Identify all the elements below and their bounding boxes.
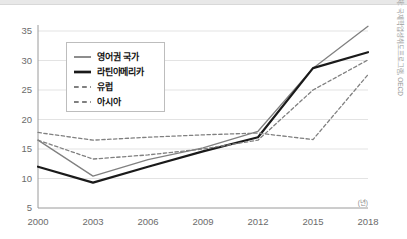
line-chart-plot: 5101520253035 20002003200620092012201520… [0,0,407,239]
legend-label-latin-america: 라틴아메리카 [97,65,144,78]
axis-unit-text: (년) [358,198,368,207]
x-tick-label: 2012 [247,216,268,227]
x-tick-label: 2006 [137,216,158,227]
x-tick-label: 2003 [82,216,103,227]
legend-swatch-asia [74,97,91,107]
y-tick-label: 30 [21,55,32,66]
legend-swatch-latin-america [74,67,91,77]
legend-item-english-speaking: 영어권 국가 [74,49,157,64]
y-tick-label: 10 [21,173,32,184]
legend-label-europe: 유럽 [97,80,113,93]
legend-item-asia: 아시아 [74,94,157,109]
legend-label-asia: 아시아 [97,95,120,108]
source-note: 출처: 국제학업성취도프로그램, OECD [396,0,406,96]
legend-swatch-europe [74,82,91,92]
y-axis-tick-labels: 5101520253035 [21,25,32,213]
x-axis-unit-label: (년) [358,198,368,207]
y-tick-label: 5 [27,202,32,213]
x-tick-label: 2009 [192,216,213,227]
x-tick-label: 2000 [27,216,48,227]
legend-label-english-speaking: 영어권 국가 [97,50,138,63]
x-tick-label: 2018 [357,216,378,227]
chart-legend: 영어권 국가 라틴아메리카 유럽 아시아 [66,42,165,112]
y-tick-label: 20 [21,114,32,125]
y-tick-label: 25 [21,84,32,95]
legend-item-latin-america: 라틴아메리카 [74,64,157,79]
x-axis-tick-labels: 2000200320062009201220152018 [27,216,378,227]
legend-item-europe: 유럽 [74,79,157,94]
legend-swatch-english-speaking [74,52,91,62]
chart-figure: 5101520253035 20002003200620092012201520… [0,0,407,239]
y-tick-label: 15 [21,143,32,154]
y-tick-label: 35 [21,25,32,36]
x-tick-label: 2015 [302,216,323,227]
